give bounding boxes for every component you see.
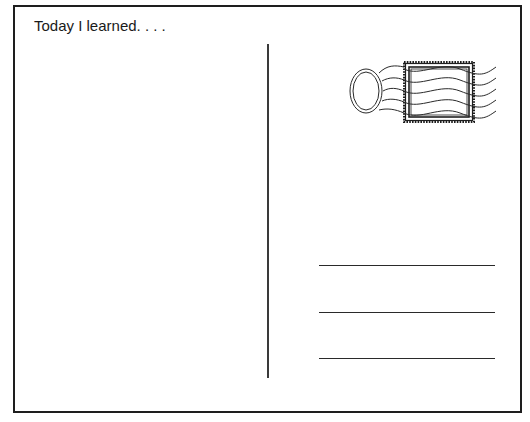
postmark-icon bbox=[350, 66, 404, 113]
postcard: Today I learned. . . . bbox=[13, 5, 522, 413]
address-line-2[interactable] bbox=[319, 312, 495, 314]
postage-stamp-icon bbox=[404, 62, 496, 122]
postcard-divider bbox=[267, 44, 269, 378]
stamp-and-postmark bbox=[345, 47, 515, 147]
address-line-1[interactable] bbox=[319, 265, 495, 267]
address-line-3[interactable] bbox=[319, 358, 495, 360]
message-heading: Today I learned. . . . bbox=[34, 17, 166, 34]
